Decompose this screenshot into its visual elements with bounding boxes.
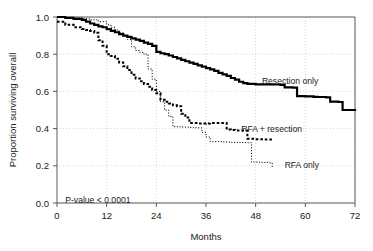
y-tick-label: 0.4 bbox=[36, 123, 49, 134]
curve-rfa-only bbox=[57, 17, 272, 168]
x-tick-label: 72 bbox=[350, 210, 361, 221]
curve-resection-only bbox=[57, 17, 355, 111]
series-labels: Resection onlyRFA + resectionRFA only bbox=[241, 76, 320, 170]
axis-ticks bbox=[53, 17, 355, 207]
x-tick-label: 60 bbox=[300, 210, 311, 221]
y-tick-label: 0.2 bbox=[36, 160, 49, 171]
y-tick-label: 0.8 bbox=[36, 49, 49, 60]
x-tick-label: 12 bbox=[101, 210, 112, 221]
y-axis-title: Proportion surviving overall bbox=[7, 53, 18, 168]
chart-annotations: P-value < 0.0001 bbox=[65, 195, 130, 205]
tick-labels: 01224364860720.00.20.40.60.81.0 bbox=[36, 12, 361, 222]
y-tick-label: 0.6 bbox=[36, 86, 49, 97]
series-label-rfa-only: RFA only bbox=[285, 160, 320, 170]
x-tick-label: 36 bbox=[201, 210, 212, 221]
survival-curve-chart: 01224364860720.00.20.40.60.81.0 Resectio… bbox=[0, 0, 373, 251]
annotation-p-value: P-value < 0.0001 bbox=[65, 195, 130, 205]
y-tick-label: 0.0 bbox=[36, 198, 49, 209]
series-label-rfa-resection: RFA + resection bbox=[241, 124, 302, 134]
x-axis-title: Months bbox=[190, 231, 221, 242]
grid-lines bbox=[57, 17, 355, 203]
y-tick-label: 1.0 bbox=[36, 12, 49, 23]
kaplan-meier-figure: 01224364860720.00.20.40.60.81.0 Resectio… bbox=[0, 0, 373, 251]
x-tick-label: 48 bbox=[250, 210, 261, 221]
x-tick-label: 0 bbox=[54, 210, 59, 221]
series-label-resection-only: Resection only bbox=[262, 76, 319, 86]
x-tick-label: 24 bbox=[151, 210, 162, 221]
